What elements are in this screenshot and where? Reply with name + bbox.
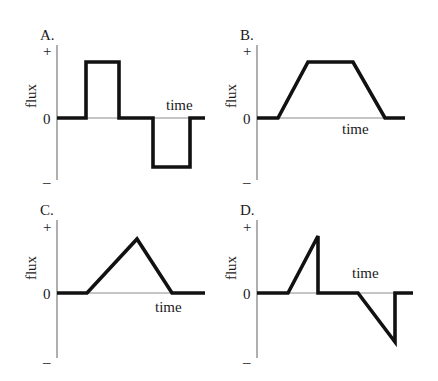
- panel-b-waveform: [257, 62, 405, 118]
- panel-c-label: C.: [40, 202, 54, 218]
- panel-d-label: D.: [240, 202, 255, 218]
- panel-c-xaxis-label: time: [155, 299, 182, 315]
- panel-b-label: B.: [240, 27, 254, 43]
- panel-d-ytick-plus: +: [243, 219, 251, 235]
- panel-c: C. + flux 0 _ time: [0, 190, 219, 380]
- panel-c-waveform: [57, 239, 205, 293]
- panel-a: A. + flux 0 _ time: [0, 0, 219, 190]
- panel-a-xaxis-label: time: [166, 97, 193, 113]
- panel-a-ytick-zero: 0: [43, 111, 51, 127]
- panel-c-ytick-plus: +: [43, 219, 51, 235]
- panel-b-ytick-zero: 0: [243, 111, 251, 127]
- panel-d-waveform: [257, 236, 413, 342]
- panel-b-yaxis-label: flux: [223, 83, 239, 108]
- panel-a-yaxis-label: flux: [23, 83, 39, 108]
- waveform-figure: A. + flux 0 _ time B. + flux 0 _ time C.: [0, 0, 438, 381]
- panel-b-ytick-plus: +: [243, 43, 251, 59]
- panel-d-ytick-minus: _: [242, 349, 251, 365]
- panel-a-waveform: [57, 62, 205, 167]
- panel-d-xaxis-label: time: [352, 265, 379, 281]
- panel-d-yaxis-label: flux: [223, 255, 239, 280]
- panel-a-ytick-minus: _: [42, 169, 51, 185]
- panel-c-ytick-zero: 0: [43, 286, 51, 302]
- panel-c-yaxis-label: flux: [23, 255, 39, 280]
- panel-c-ytick-minus: _: [42, 349, 51, 365]
- panel-d-ytick-zero: 0: [243, 286, 251, 302]
- panel-a-ytick-plus: +: [43, 43, 51, 59]
- panel-d: D. + flux 0 _ time: [200, 190, 419, 380]
- panel-a-label: A.: [40, 27, 55, 43]
- panel-b-ytick-minus: _: [242, 169, 251, 185]
- panel-b-xaxis-label: time: [342, 121, 369, 137]
- panel-b: B. + flux 0 _ time: [200, 0, 419, 190]
